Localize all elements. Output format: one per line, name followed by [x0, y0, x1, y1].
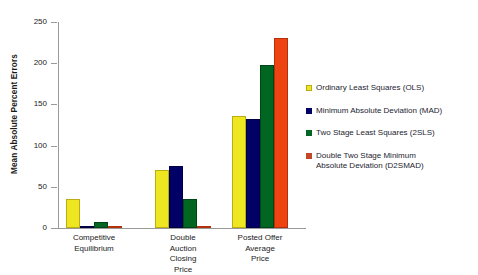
legend-item[interactable]: Minimum Absolute Deviation (MAD)	[306, 106, 442, 116]
legend-item[interactable]: Double Two Stage Minimum Absolute Deviat…	[306, 151, 442, 171]
y-axis-tick-mark	[51, 22, 57, 23]
bar-chart: Mean Absolute Percent Errors 05010015020…	[0, 0, 478, 275]
bar	[94, 222, 108, 228]
legend-color-swatch-icon	[306, 130, 312, 136]
bar	[155, 170, 169, 228]
legend-item[interactable]: Ordinary Least Squares (OLS)	[306, 83, 442, 93]
legend-item-label: Minimum Absolute Deviation (MAD)	[316, 106, 442, 116]
bar	[108, 226, 122, 228]
bar	[66, 199, 80, 228]
chart-legend: Ordinary Least Squares (OLS)Minimum Abso…	[306, 83, 442, 183]
y-axis-tick-label: 200	[0, 58, 47, 67]
bar	[169, 166, 183, 228]
y-axis-tick-mark	[51, 63, 57, 64]
y-axis-tick-mark	[51, 104, 57, 105]
bar	[246, 119, 260, 228]
y-axis-tick-mark	[51, 228, 57, 229]
legend-color-swatch-icon	[306, 153, 312, 159]
bar	[80, 226, 94, 228]
bar	[197, 226, 211, 228]
x-axis-category-label: Posted Offer Average Price	[220, 233, 300, 265]
y-axis-tick-label: 250	[0, 17, 47, 26]
x-axis-line	[51, 228, 306, 229]
plot-area	[58, 22, 292, 228]
bar	[183, 199, 197, 228]
legend-color-swatch-icon	[306, 108, 312, 114]
legend-item-label: Ordinary Least Squares (OLS)	[316, 83, 424, 93]
y-axis-tick-label: 50	[0, 182, 47, 191]
x-axis-category-label: Competitive Equilibrium	[54, 233, 134, 254]
x-axis-category-label: Double Auction Closing Price	[143, 233, 223, 275]
bar	[274, 38, 288, 228]
legend-item[interactable]: Two Stage Least Squares (2SLS)	[306, 128, 442, 138]
y-axis-tick-mark	[51, 187, 57, 188]
legend-item-label: Double Two Stage Minimum Absolute Deviat…	[316, 151, 424, 171]
y-axis-tick-label: 150	[0, 99, 47, 108]
legend-color-swatch-icon	[306, 85, 312, 91]
legend-item-label: Two Stage Least Squares (2SLS)	[316, 128, 435, 138]
bar	[232, 116, 246, 228]
y-axis-tick-mark	[51, 146, 57, 147]
y-axis-tick-label: 0	[0, 223, 47, 232]
bar	[260, 65, 274, 228]
y-axis-tick-label: 100	[0, 141, 47, 150]
